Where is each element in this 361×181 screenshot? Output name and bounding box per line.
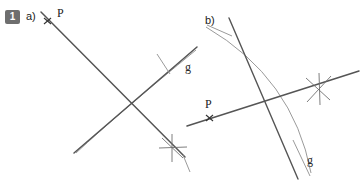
figure-root: 1 a) b) [0,0,361,181]
panel-a-construction: P g [41,6,197,162]
line-g-panel-b [187,71,359,126]
perpendicular-line-panel-b [229,18,298,179]
point-label-p-panel-a: P [57,6,64,20]
line-label-g-panel-a: g [185,60,191,74]
line-label-g-panel-b: g [307,153,313,167]
arc-panel-b [206,27,311,173]
arc-intersection-cross-upper-panel-a [157,54,170,74]
geometry-canvas: P g [0,0,361,181]
edge-construction-hint-panel-b [183,155,190,172]
point-label-p-panel-b: P [205,97,212,111]
exercise-number-badge: 1 [5,10,20,24]
panel-label-b: b) [205,14,215,26]
construction-star-marker-panel-b [306,73,331,105]
construction-star-marker-panel-a [159,134,187,162]
arc-intersection-cross-upper-panel-b [207,25,232,36]
panel-label-a: a) [26,10,36,22]
panel-b-construction: P g [183,18,359,179]
perpendicular-line-panel-a [41,12,185,157]
